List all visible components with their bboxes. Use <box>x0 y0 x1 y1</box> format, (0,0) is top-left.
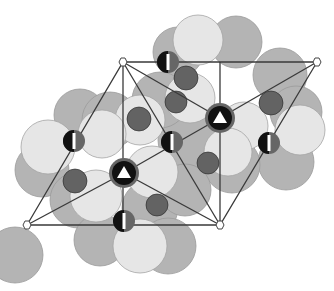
hexagon-icon <box>313 58 321 66</box>
crystal-structure-diagram: Crystal structure projection <box>0 0 334 291</box>
diagram-canvas <box>0 0 334 291</box>
hexagon-icon <box>216 221 224 229</box>
hexagon-icon <box>23 221 31 229</box>
hexagon-icon <box>119 58 127 66</box>
